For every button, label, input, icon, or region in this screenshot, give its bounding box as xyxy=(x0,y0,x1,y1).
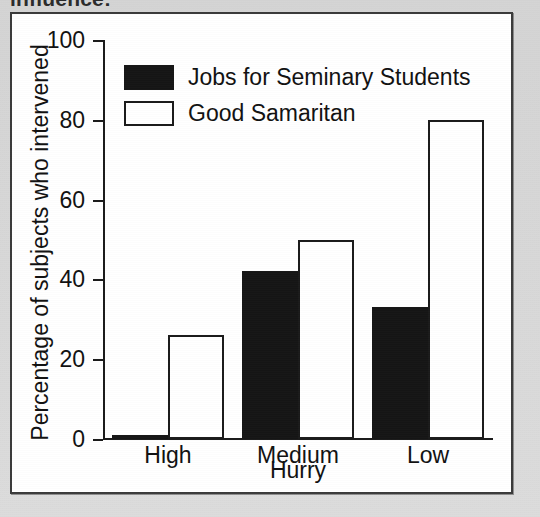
screenshot-page: influence: 020406080100 Percentage of su… xyxy=(0,0,540,517)
y-axis-title: Percentage of subjects who intervened xyxy=(27,33,54,453)
bar-low-good-samaritan xyxy=(428,120,484,439)
y-axis-line xyxy=(103,40,105,440)
x-axis-title: Hurry xyxy=(103,457,493,484)
chart-legend: Jobs for Seminary StudentsGood Samaritan xyxy=(124,64,471,136)
bar-low-jobs-for-seminary-students xyxy=(372,307,428,439)
legend-item: Good Samaritan xyxy=(124,100,471,127)
bar-high-good-samaritan xyxy=(168,335,224,439)
y-tick-mark xyxy=(93,359,103,361)
y-tick-mark xyxy=(93,279,103,281)
y-tick-mark xyxy=(93,439,103,441)
y-tick-mark xyxy=(93,40,103,42)
bar-medium-jobs-for-seminary-students xyxy=(242,271,298,439)
bar-chart-plot: 020406080100 Percentage of subjects who … xyxy=(12,14,511,492)
y-tick-mark xyxy=(93,200,103,202)
legend-swatch-icon xyxy=(124,101,174,126)
bar-medium-good-samaritan xyxy=(298,240,354,440)
figure-frame: 020406080100 Percentage of subjects who … xyxy=(10,12,513,494)
y-tick-mark xyxy=(93,120,103,122)
cropped-caption-text: influence: xyxy=(10,0,111,11)
legend-label: Jobs for Seminary Students xyxy=(188,64,471,91)
legend-label: Good Samaritan xyxy=(188,100,355,127)
legend-item: Jobs for Seminary Students xyxy=(124,64,471,91)
legend-swatch-icon xyxy=(124,65,174,90)
bar-high-jobs-for-seminary-students xyxy=(112,435,168,439)
